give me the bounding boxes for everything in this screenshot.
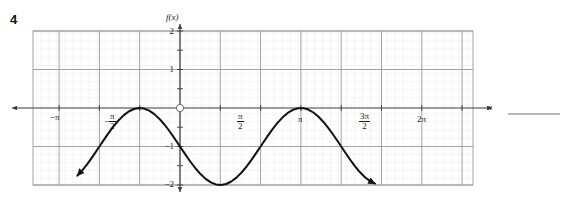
x-tick-label-pi: π bbox=[298, 115, 303, 124]
fraction-denominator: 2 bbox=[237, 121, 244, 131]
y-axis-label-text: f(x) bbox=[166, 12, 179, 22]
coordinate-plane-graph bbox=[0, 0, 564, 197]
y-tick-label-minus-2: −2 bbox=[152, 179, 174, 189]
worksheet-page: 4 bbox=[0, 0, 564, 197]
y-tick-minus-2-text: −2 bbox=[164, 179, 174, 189]
fraction-pi-over-2: π2 bbox=[237, 112, 244, 132]
y-tick-label-2: 2 bbox=[158, 26, 174, 36]
origin-marker bbox=[176, 104, 183, 111]
fraction-numerator: 3π bbox=[359, 112, 370, 121]
fraction-three-pi-over-2: 3π2 bbox=[359, 112, 370, 132]
fraction-denominator: 2 bbox=[359, 121, 370, 131]
fraction-neg-pi-over-2: π2 bbox=[109, 112, 116, 132]
y-tick-2-text: 2 bbox=[170, 26, 175, 36]
x-tick-two-pi-text: 2π bbox=[417, 114, 426, 124]
x-tick-label-pi-over-2: π2 bbox=[237, 112, 244, 132]
x-tick-neg-pi-text: −π bbox=[50, 112, 60, 122]
fraction-denominator: 2 bbox=[109, 121, 116, 131]
y-tick-minus-1-text: −1 bbox=[164, 141, 174, 151]
x-tick-label-neg-pi: −π bbox=[50, 113, 60, 122]
x-tick-label-two-pi: 2π bbox=[417, 115, 426, 124]
fraction-numerator: π bbox=[109, 112, 116, 121]
x-tick-label-three-pi-over-2: 3π2 bbox=[359, 112, 370, 132]
x-axis-label: x bbox=[488, 103, 492, 112]
y-tick-label-1: 1 bbox=[158, 64, 174, 74]
y-axis-label: f(x) bbox=[166, 13, 179, 22]
fraction-numerator: π bbox=[237, 112, 244, 121]
y-tick-label-minus-1: −1 bbox=[152, 141, 174, 151]
x-axis-label-text: x bbox=[488, 102, 492, 112]
x-tick-label-neg-pi-over-2: −π2 bbox=[104, 112, 116, 132]
y-tick-1-text: 1 bbox=[170, 64, 175, 74]
x-tick-pi-text: π bbox=[298, 114, 303, 124]
answer-blank-line[interactable] bbox=[508, 113, 560, 115]
